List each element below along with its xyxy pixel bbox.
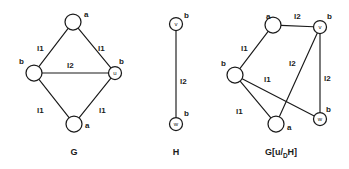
- node-g-top[interactable]: [65, 14, 81, 30]
- edge-label-g-left-g-top: l1: [37, 44, 44, 53]
- node-name-s-w: w: [317, 116, 323, 122]
- graph-g-sub-h-caption-main: G[u/: [265, 147, 283, 157]
- graph-g-sub-h-caption: G[u/DH]: [265, 147, 297, 159]
- graph-figure: l1l1l2l1l1abubaGl2vbwbHl1l2l2l2l1l1avbba…: [0, 0, 349, 169]
- node-label-s-bottom: a: [287, 123, 292, 132]
- node-label-s-w: b: [326, 105, 331, 114]
- node-g-left[interactable]: [26, 65, 42, 81]
- node-label-h-v: b: [184, 11, 189, 20]
- edge-label-g-bottom-g-u: l1: [99, 106, 106, 115]
- node-label-s-v: b: [327, 12, 332, 21]
- edge-label-g-left-g-u: l2: [67, 61, 74, 70]
- edge-label-s-left-s-w: l1: [264, 75, 271, 84]
- node-label-s-topleft: a: [266, 12, 271, 21]
- node-s-bottom[interactable]: [268, 116, 284, 132]
- edge-label-s-left-s-bottom: l1: [236, 107, 243, 116]
- node-label-s-left: b: [221, 59, 226, 68]
- node-s-left[interactable]: [227, 67, 243, 83]
- edge-label-s-topleft-s-v: l2: [294, 12, 301, 21]
- edge-label-s-left-s-topleft: l1: [241, 44, 248, 53]
- graph-h-caption: H: [173, 147, 180, 157]
- edge-label-h-v-h-w: l2: [180, 77, 187, 86]
- node-label-g-bottom: a: [85, 121, 90, 130]
- graph-h-caption-main: H: [173, 147, 180, 157]
- node-name-h-w: w: [173, 121, 179, 127]
- edge-label-s-v-s-bottom: l2: [289, 59, 296, 68]
- edge-label-g-top-g-u: l1: [98, 44, 105, 53]
- graph-g-caption-main: G: [70, 147, 77, 157]
- node-label-h-w: b: [184, 109, 189, 118]
- node-name-g-u: u: [113, 70, 116, 76]
- edge-label-s-v-s-w: l2: [324, 74, 331, 83]
- node-label-g-u: b: [119, 57, 124, 66]
- edge-label-g-left-g-bottom: l1: [37, 106, 44, 115]
- graph-g-caption: G: [70, 147, 77, 157]
- node-name-s-v: v: [319, 24, 322, 30]
- graph-g-sub-h-caption-tail: H]: [288, 147, 298, 157]
- node-label-g-left: b: [19, 57, 24, 66]
- node-g-bottom[interactable]: [66, 116, 82, 132]
- node-name-h-v: v: [175, 21, 178, 27]
- node-label-g-top: a: [84, 10, 89, 19]
